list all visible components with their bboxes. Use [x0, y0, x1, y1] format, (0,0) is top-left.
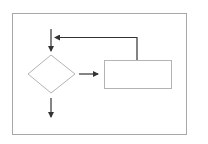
process-box: [105, 61, 172, 89]
flowchart-diagram: [0, 0, 208, 144]
